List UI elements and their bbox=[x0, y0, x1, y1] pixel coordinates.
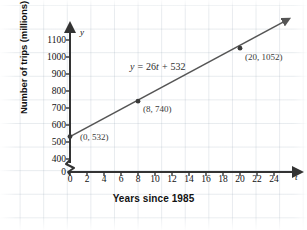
data-point-0-532 bbox=[68, 134, 73, 139]
y-axis bbox=[66, 31, 74, 175]
data-point-20-1052 bbox=[238, 46, 243, 51]
data-point-8-740 bbox=[136, 99, 141, 104]
chart-figure: Number of trips (millions) 1100 1000 900… bbox=[0, 0, 307, 230]
trend-line-series bbox=[68, 22, 284, 139]
x-axis bbox=[68, 172, 294, 176]
plot-canvas bbox=[0, 0, 307, 230]
